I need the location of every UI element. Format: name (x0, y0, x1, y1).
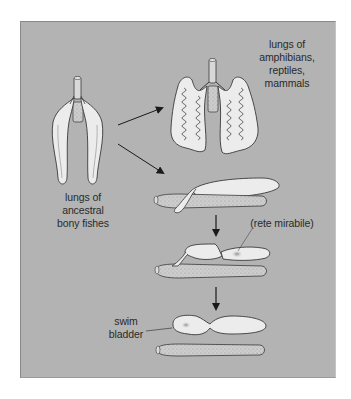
label-line: (rete mirabile) (244, 217, 320, 230)
label-line: swim (104, 315, 148, 328)
ancestral-lungs-label: lungs of ancestral bony fishes (48, 191, 118, 230)
label-line: amphibians, (252, 51, 322, 64)
rete-mirabile-spot (231, 250, 243, 258)
rete-mirabile-label: (rete mirabile) (244, 217, 320, 230)
fish-stage-2 (155, 229, 270, 278)
label-line: ancestral (48, 204, 118, 217)
label-line: bony fishes (48, 217, 118, 230)
arrow-to-tetrapod-lungs (118, 108, 162, 125)
label-line: bladder (104, 328, 148, 341)
arrow-to-fish-stage-1 (118, 144, 163, 173)
tetrapod-lungs-label: lungs of amphibians, reptiles, mammals (252, 38, 322, 90)
tetrapod-lungs-figure (171, 59, 258, 154)
fish-stage-1 (154, 178, 279, 213)
label-line: lungs of (252, 38, 322, 51)
ancestral-lungs-figure (52, 77, 102, 185)
label-line: mammals (252, 77, 322, 90)
swim-bladder-pointer-line (146, 328, 172, 331)
swim-bladder-label: swim bladder (104, 315, 148, 341)
label-line: lungs of (48, 191, 118, 204)
label-line: reptiles, (252, 64, 322, 77)
fish-stage-3 (146, 315, 266, 356)
